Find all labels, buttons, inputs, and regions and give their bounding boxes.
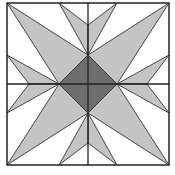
quilt-block: [0, 0, 175, 175]
quilt-shapes: [7, 3, 169, 165]
